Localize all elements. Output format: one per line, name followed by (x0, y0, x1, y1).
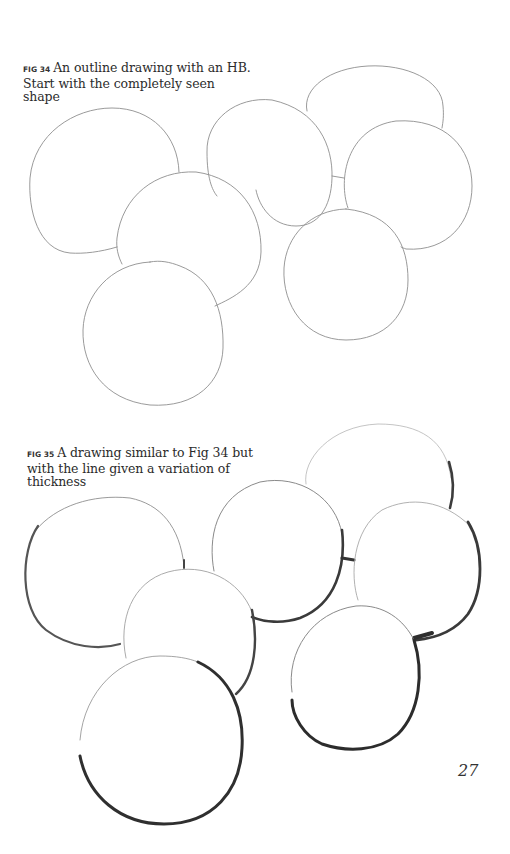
fig-35-drawing (0, 0, 510, 854)
circle-f-outline (354, 502, 480, 640)
circle-b-outline (124, 569, 255, 694)
circle-g-outline (291, 606, 419, 749)
circle-e-outline (306, 424, 453, 508)
circle-c-outline (80, 656, 242, 824)
circle-d-outline (212, 480, 343, 621)
page-number: 27 (458, 761, 478, 780)
circle-a-outline (25, 497, 184, 647)
